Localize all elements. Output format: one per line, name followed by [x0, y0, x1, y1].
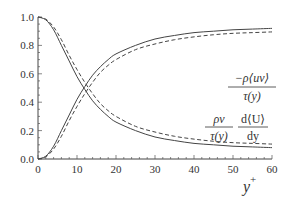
series-line-0	[38, 28, 272, 159]
x-axis-title: y+	[241, 173, 256, 196]
x-tick-label: 20	[111, 163, 123, 175]
x-tick-label: 30	[150, 163, 162, 175]
x-tick-label: 0	[35, 163, 41, 175]
annotation-reynolds-stress: −ρ⟨uv⟩ τ(y)	[228, 71, 276, 103]
x-tick-label: 50	[228, 163, 240, 175]
x-tick-label: 10	[72, 163, 84, 175]
x-tick-label: 40	[189, 163, 201, 175]
axes	[38, 17, 272, 159]
series-line-1	[38, 32, 272, 159]
annotation-viscous-stress: ρν τ(y) d⟨U⟩ dy	[205, 112, 268, 143]
y-tick-label: 0.2	[20, 125, 34, 137]
y-tick-label: 0.6	[20, 68, 34, 80]
annotation-2a-denominator: τ(y)	[210, 129, 228, 143]
annotation-1-denominator: τ(y)	[243, 89, 261, 103]
x-tick-label: 60	[267, 163, 279, 175]
y-tick-label: 0.0	[20, 153, 34, 165]
y-tick-label: 0.4	[20, 96, 34, 108]
y-tick-label: 0.8	[20, 39, 34, 51]
stress-fraction-chart: 01020304050600.00.20.40.60.81.0 −ρ⟨uv⟩ τ…	[0, 0, 292, 200]
tick-marks	[38, 17, 272, 159]
annotation-2a-numerator: ρν	[212, 112, 225, 126]
annotation-2b-numerator: d⟨U⟩	[241, 112, 265, 126]
annotation-1-numerator: −ρ⟨uv⟩	[235, 71, 270, 85]
annotation-2b-denominator: dy	[247, 129, 259, 143]
x-axis-label: y+	[241, 173, 256, 196]
data-series	[38, 17, 272, 159]
y-tick-label: 1.0	[20, 11, 34, 23]
